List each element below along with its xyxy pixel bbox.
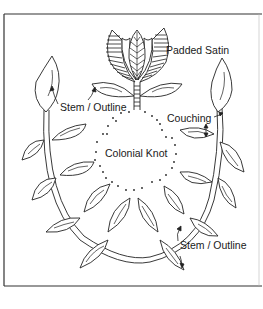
tulip-flower — [92, 28, 182, 110]
label-stem-outline-top: Stem / Outline — [60, 101, 127, 113]
label-padded-satin: Padded Satin — [166, 44, 229, 56]
label-couching: Couching — [167, 112, 212, 124]
embroidery-diagram: Padded Satin Stem / Outline Couching Col… — [0, 0, 263, 309]
label-stem-outline-bottom: Stem / Outline — [180, 239, 247, 251]
label-colonial-knot: Colonial Knot — [105, 147, 168, 159]
